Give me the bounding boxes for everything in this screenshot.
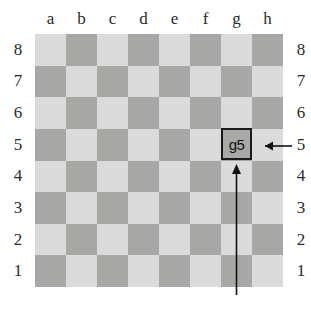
board-square-g7 — [221, 66, 252, 98]
board-square-a6 — [35, 97, 66, 129]
coordinate-highlight-box: g5 — [221, 128, 252, 160]
board-square-f6 — [190, 97, 221, 129]
board-square-a3 — [35, 192, 66, 224]
board-square-d5 — [128, 129, 159, 161]
board-square-c5 — [97, 129, 128, 161]
rank-label-3-left: 3 — [4, 192, 32, 224]
board-square-d2 — [128, 224, 159, 256]
board-square-e1 — [159, 255, 190, 287]
board-square-a5 — [35, 129, 66, 161]
file-label-g-top: g — [221, 8, 252, 30]
board-square-a1 — [35, 255, 66, 287]
board-square-f2 — [190, 224, 221, 256]
rank-label-2-right: 2 — [287, 224, 311, 256]
board-square-b4 — [66, 161, 97, 193]
board-square-b7 — [66, 66, 97, 98]
rank-label-5-right: 5 — [287, 129, 311, 161]
board-square-h5 — [252, 129, 283, 161]
board-square-a2 — [35, 224, 66, 256]
file-label-e-top: e — [159, 8, 190, 30]
rank-labels-left: 8 7 6 5 4 3 2 1 — [4, 34, 32, 287]
board-square-a8 — [35, 34, 66, 66]
rank-label-8-left: 8 — [4, 34, 32, 66]
file-label-d-top: d — [128, 8, 159, 30]
rank-label-8-right: 8 — [287, 34, 311, 66]
board-square-f1 — [190, 255, 221, 287]
board-square-c3 — [97, 192, 128, 224]
board-square-c2 — [97, 224, 128, 256]
board-square-a7 — [35, 66, 66, 98]
board-square-e3 — [159, 192, 190, 224]
file-label-b-top: b — [66, 8, 97, 30]
board-square-c8 — [97, 34, 128, 66]
board-square-d7 — [128, 66, 159, 98]
board-square-b5 — [66, 129, 97, 161]
file-label-h-top: h — [252, 8, 283, 30]
board-square-c6 — [97, 97, 128, 129]
board-square-h8 — [252, 34, 283, 66]
board-square-g6 — [221, 97, 252, 129]
rank-label-3-right: 3 — [287, 192, 311, 224]
board-square-f5 — [190, 129, 221, 161]
board-square-e8 — [159, 34, 190, 66]
board-square-e5 — [159, 129, 190, 161]
rank-label-6-left: 6 — [4, 97, 32, 129]
rank-label-1-right: 1 — [287, 255, 311, 287]
file-label-f-top: f — [190, 8, 221, 30]
coordinate-label: g5 — [229, 136, 245, 153]
board-square-h3 — [252, 192, 283, 224]
board-square-e7 — [159, 66, 190, 98]
board-square-c7 — [97, 66, 128, 98]
rank-label-4-left: 4 — [4, 161, 32, 193]
board-square-a4 — [35, 161, 66, 193]
board-square-b8 — [66, 34, 97, 66]
board-square-g1 — [221, 255, 252, 287]
file-labels-top: a b c d e f g h — [35, 8, 283, 30]
board-square-d6 — [128, 97, 159, 129]
board-square-e6 — [159, 97, 190, 129]
rank-label-5-left: 5 — [4, 129, 32, 161]
board-square-g8 — [221, 34, 252, 66]
board-square-f8 — [190, 34, 221, 66]
file-label-a-top: a — [35, 8, 66, 30]
board-square-f3 — [190, 192, 221, 224]
board-square-h6 — [252, 97, 283, 129]
board-square-g4 — [221, 161, 252, 193]
board-square-d8 — [128, 34, 159, 66]
rank-label-4-right: 4 — [287, 161, 311, 193]
board-square-e2 — [159, 224, 190, 256]
board-square-f4 — [190, 161, 221, 193]
rank-label-2-left: 2 — [4, 224, 32, 256]
board-square-b1 — [66, 255, 97, 287]
board-square-h2 — [252, 224, 283, 256]
board-square-b3 — [66, 192, 97, 224]
board-square-c1 — [97, 255, 128, 287]
board-square-g2 — [221, 224, 252, 256]
board-square-h4 — [252, 161, 283, 193]
board-square-d4 — [128, 161, 159, 193]
board-square-b6 — [66, 97, 97, 129]
board-square-b2 — [66, 224, 97, 256]
chessboard-grid — [35, 34, 283, 287]
rank-labels-right: 8 7 6 5 4 3 2 1 — [287, 34, 311, 287]
board-square-e4 — [159, 161, 190, 193]
board-square-h1 — [252, 255, 283, 287]
board-square-d1 — [128, 255, 159, 287]
board-square-d3 — [128, 192, 159, 224]
rank-label-6-right: 6 — [287, 97, 311, 129]
chessboard-coordinate-diagram: a b c d e f g h 8 7 6 5 4 3 2 1 8 7 6 5 … — [0, 0, 311, 323]
rank-label-7-right: 7 — [287, 66, 311, 98]
board-square-g3 — [221, 192, 252, 224]
rank-label-7-left: 7 — [4, 66, 32, 98]
board-square-c4 — [97, 161, 128, 193]
file-label-c-top: c — [97, 8, 128, 30]
board-square-f7 — [190, 66, 221, 98]
board-square-h7 — [252, 66, 283, 98]
rank-label-1-left: 1 — [4, 255, 32, 287]
